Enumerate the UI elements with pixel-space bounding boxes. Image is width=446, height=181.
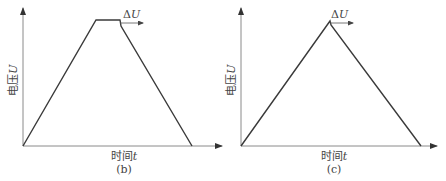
panel-caption: (c) (327, 163, 342, 176)
y-axis-label: 电压U (7, 64, 20, 96)
panel-b: ΔU 电压U 时间t (b) (7, 8, 222, 176)
voltage-curve-triangle (241, 21, 421, 146)
panel-caption: (b) (116, 163, 132, 176)
panel-c: ΔU 电压U 时间t (c) (225, 8, 437, 176)
x-axis-label: 时间t (321, 150, 348, 163)
delta-u-label: ΔU (331, 8, 349, 21)
x-axis-label: 时间t (111, 150, 138, 163)
voltage-curve-trapezoid (23, 20, 192, 146)
y-axis-label: 电压U (225, 64, 238, 96)
delta-u-label: ΔU (123, 8, 141, 21)
diagram-canvas: ΔU 电压U 时间t (b) ΔU 电压U 时间t (c) (0, 0, 446, 181)
